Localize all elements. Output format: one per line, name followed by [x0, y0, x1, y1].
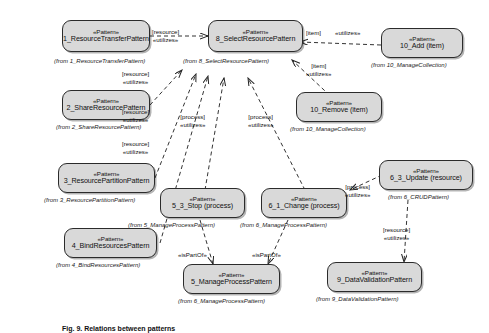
edge-role: [resource]	[152, 28, 179, 35]
edge-stereotype: «utilizes»	[122, 116, 149, 124]
edge-role: [resource]	[122, 108, 149, 115]
edge-stereotype: «utilizes»	[122, 148, 149, 156]
edge-label-update-to-change: [process] «utilizes»	[345, 183, 370, 199]
edge-stereotype: «utilizes»	[248, 121, 273, 129]
node-label: 10_Remove (item)	[310, 106, 368, 115]
node-1-resource-transfer-pattern[interactable]: «Pattern» 1_ResourceTransferPattern	[62, 20, 150, 52]
figure-caption: Fig. 9. Relations between patterns	[62, 325, 175, 332]
edge-role: [process]	[248, 113, 273, 120]
node-10-add-item[interactable]: «Pattern» 10_Add (item)	[381, 28, 463, 58]
edge-role: «isPartOf»	[252, 251, 281, 258]
edge-label-stop-to-8: [process] «utilizes»	[180, 113, 205, 129]
node-label: 5_ManageProcessPattern	[191, 278, 272, 287]
node-9-data-validation-pattern[interactable]: «Pattern» 9_DataValidationPattern	[327, 262, 422, 292]
edge-label-2-to-8: [resource] «utilizes»	[122, 70, 149, 86]
edge-role: «isPartOf»	[178, 251, 207, 258]
edge-role: [process]	[180, 113, 205, 120]
edge-role: [resource]	[122, 70, 149, 77]
edge-stereotype: «utilizes»	[152, 36, 179, 44]
node-5-from-package: (from 6_ManageProcessPattern)	[178, 298, 265, 305]
node-4-bind-resources-pattern[interactable]: «Pattern» 4_BindResourcesPattern	[64, 228, 157, 258]
node-label: 3_ResourcePartitionPattern	[64, 177, 150, 186]
node-6-1-change-process[interactable]: «Pattern» 6_1_Change (process)	[261, 188, 347, 218]
node-label: 10_Add (item)	[400, 42, 444, 51]
edge-role: [resource]	[122, 140, 149, 147]
node-6-1-from-package: (from 6_ManageProcessPattern)	[240, 222, 327, 229]
edge-label-3-to-8: [resource] «utilizes»	[122, 108, 149, 124]
node-label: 1_ResourceTransferPattern	[63, 35, 149, 44]
edge-stereotype: «utilizes»	[383, 234, 410, 242]
edge-role: [item]	[306, 29, 321, 36]
node-label: 5_3_Stop (process)	[172, 202, 233, 211]
node-10-add-from-package: (from 10_ManageCollection)	[371, 62, 447, 69]
node-9-from-package: (from 9_DataValidationPattern)	[316, 296, 399, 303]
node-4-from-package: (from 4_BindResourcesPattern)	[56, 262, 140, 269]
edge-label-4-to-8: [resource] «utilizes»	[122, 140, 149, 156]
node-label: 8_SelectResourcePattern	[216, 35, 296, 44]
node-6-3-update-resource[interactable]: «Pattern» 6_3_Update (resource)	[379, 160, 473, 190]
edge-stereotype: «utilizes»	[306, 70, 331, 78]
node-8-from-package: (from 8_SelectResourcePattern)	[183, 58, 269, 65]
diagram-canvas: «Pattern» 1_ResourceTransferPattern (fro…	[0, 0, 489, 333]
edge-stereotype: «utilizes»	[335, 29, 360, 36]
node-3-resource-partition-pattern[interactable]: «Pattern» 3_ResourcePartitionPattern	[58, 163, 155, 193]
edge-label-remove-to-8: [item] «utilizes»	[306, 62, 331, 78]
edge-stereotype: «utilizes»	[122, 78, 149, 86]
node-label: 6_3_Update (resource)	[390, 174, 462, 183]
edge-label-ispartof-stop: «isPartOf»	[178, 251, 207, 259]
edge-role: [resource]	[383, 226, 410, 233]
node-6-3-from-package: (from 6_CRUDPattern)	[388, 194, 449, 201]
edge-label-add-to-8-stereotype: «utilizes»	[335, 29, 360, 37]
node-10-remove-item[interactable]: «Pattern» 10_Remove (item)	[296, 92, 382, 122]
node-label: 6_1_Change (process)	[268, 202, 339, 211]
edge-label-change-to-8: [process] «utilizes»	[248, 113, 273, 129]
edge-role: [item]	[311, 62, 326, 69]
edge-role: [process]	[345, 183, 370, 190]
edge-stereotype: «utilizes»	[180, 121, 205, 129]
node-label: 4_BindResourcesPattern	[72, 242, 150, 251]
node-5-3-stop-process[interactable]: «Pattern» 5_3_Stop (process)	[160, 188, 245, 218]
node-1-from-package: (from 1_ResourceTransferPattern)	[54, 58, 145, 65]
edge-label-add-to-8: [item]	[306, 29, 321, 37]
node-3-from-package: (from 3_ResourcePartitionPattern)	[44, 197, 135, 204]
edge-label-1-to-8: [resource] «utilizes»	[152, 28, 179, 44]
edge-label-ispartof-change: «isPartOf»	[252, 251, 281, 259]
node-8-select-resource-pattern[interactable]: «Pattern» 8_SelectResourcePattern	[208, 20, 303, 52]
node-2-from-package: (from 2_ShareResourcePattern)	[56, 124, 141, 131]
edge-stereotype: «utilizes»	[345, 191, 370, 199]
node-5-manage-process-pattern[interactable]: «Pattern» 5_ManageProcessPattern	[183, 264, 280, 294]
node-5-3-from-package: (from 5_ManageProcessPattern)	[128, 222, 215, 229]
edge-label-update-to-validation: [resource] «utilizes»	[383, 226, 410, 242]
node-label: 9_DataValidationPattern	[337, 276, 412, 285]
node-10-remove-from-package: (from 10_ManageCollection)	[290, 126, 366, 133]
